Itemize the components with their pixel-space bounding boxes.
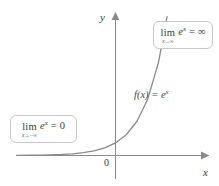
limit-body-exponent: x <box>45 118 48 126</box>
limit-subscript: x→∞ <box>162 39 174 44</box>
y-axis-label: y <box>100 12 105 23</box>
limit-operator: lim <box>22 122 37 133</box>
function-label: f(x) = ex <box>134 90 169 101</box>
limit-expression: lim x→−∞ ex = 0 <box>22 121 65 137</box>
function-label-text: f(x) = e <box>134 89 166 100</box>
origin-label: 0 <box>104 158 109 168</box>
limit-expression: lim x→∞ ex = ∞ <box>161 27 206 43</box>
limit-operator-stack: lim x→−∞ <box>22 122 37 138</box>
limit-subscript: x→−∞ <box>22 133 37 138</box>
callout-limit-positive-infinity: lim x→∞ ex = ∞ <box>153 21 213 49</box>
limit-equals-sign: = <box>51 121 57 132</box>
limit-body-exponent: x <box>183 24 186 32</box>
callout-limit-negative-infinity: lim x→−∞ ex = 0 <box>10 115 77 143</box>
limit-body: ex <box>178 27 186 38</box>
limit-body: ex <box>40 121 48 132</box>
function-label-exponent: x <box>166 88 169 96</box>
y-axis-arrowhead <box>112 12 120 20</box>
limit-result: 0 <box>60 121 65 132</box>
x-axis-label: x <box>203 167 208 178</box>
limit-operator-stack: lim x→∞ <box>161 28 176 44</box>
exponential-function-figure: y x 0 f(x) = ex lim x→∞ ex = ∞ lim x→−∞ … <box>0 0 219 186</box>
x-axis-arrowhead <box>201 152 210 160</box>
y-axis <box>112 12 120 179</box>
limit-equals-sign: = <box>189 27 195 38</box>
limit-operator: lim <box>161 28 176 39</box>
limit-result: ∞ <box>198 27 206 38</box>
